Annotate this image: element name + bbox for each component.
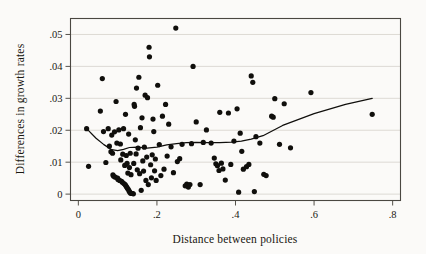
data-point [158,173,163,178]
x-axis-title: Distance between policies [172,233,297,246]
data-point [151,129,156,134]
data-point [198,182,203,187]
data-point [160,114,165,119]
data-point [212,155,217,160]
data-point [149,175,154,180]
data-point [155,83,160,88]
x-tick-label-0: 0 [76,209,81,220]
data-point [249,73,254,78]
data-point [152,168,157,173]
data-point [150,116,155,121]
data-point [116,127,121,132]
data-point [133,137,138,142]
data-point [118,141,123,146]
y-tick-label-0: 0 [57,189,62,200]
y-tick-label-2: .02 [49,125,62,136]
data-point [223,177,228,182]
data-point [236,190,241,195]
scatter-plot-svg: 0.01.02.03.04.05 0.2.4.6.8 Distance betw… [0,0,426,254]
data-point [101,129,106,134]
data-point [100,76,105,81]
x-tick-label-4: .8 [389,209,397,220]
data-point [150,152,155,157]
x-tick-label-2: .4 [232,209,241,220]
data-point [271,115,276,120]
data-point [187,182,192,187]
data-point [239,149,244,154]
data-point [148,162,153,167]
y-tick-label-5: .05 [49,29,62,40]
data-point [110,151,115,156]
y-tick-label-4: .04 [49,61,63,72]
y-tick-label-3: .03 [49,93,62,104]
data-point [141,169,146,174]
data-point [217,110,222,115]
data-point [264,173,269,178]
data-point [219,161,224,166]
data-point [163,102,168,107]
data-point [103,160,108,165]
x-tick-label-3: .6 [310,209,318,220]
data-point [132,104,137,109]
data-point [173,25,178,30]
data-point [272,96,277,101]
data-point [146,45,151,50]
data-point [128,172,133,177]
data-point [123,112,128,117]
y-tick-label-1: .01 [49,157,62,168]
data-point [226,110,231,115]
data-point [288,145,293,150]
data-point [370,112,375,117]
data-point [252,189,257,194]
data-point [86,164,91,169]
data-point [106,126,111,131]
data-point [234,106,239,111]
data-point [220,166,225,171]
data-point [282,101,287,106]
data-point [171,170,176,175]
data-point [134,151,139,156]
data-point [257,140,262,145]
data-point [161,167,166,172]
data-point [138,125,143,130]
chart-figure: 0.01.02.03.04.05 0.2.4.6.8 Distance betw… [0,0,426,254]
data-point [113,99,118,104]
data-point [98,108,103,113]
data-point [131,161,136,166]
data-point [140,158,145,163]
data-point [165,154,170,159]
data-point [177,156,182,161]
data-point [228,162,233,167]
data-point [308,90,313,95]
data-point [127,165,132,170]
data-point [139,188,144,193]
data-point [145,95,150,100]
data-point [135,146,140,151]
data-point [277,142,282,147]
data-point [118,157,123,162]
data-point [139,115,144,120]
data-point [134,86,139,91]
data-point [128,151,133,156]
data-point [204,127,209,132]
data-point [246,162,251,167]
data-point [166,122,171,127]
data-point [250,80,255,85]
plot-background [0,0,426,254]
data-point [189,141,194,146]
data-point [136,75,141,80]
data-point [144,154,149,159]
data-point [154,178,159,183]
y-axis-title: Differences in growth rates [14,43,27,174]
data-point [147,54,152,59]
data-point [121,126,126,131]
data-point [146,182,151,187]
data-point [153,156,158,161]
data-point [238,131,243,136]
data-point [131,191,136,196]
data-point [194,119,199,124]
data-point [190,64,195,69]
data-point [126,131,131,136]
x-tick-label-1: .2 [153,209,161,220]
